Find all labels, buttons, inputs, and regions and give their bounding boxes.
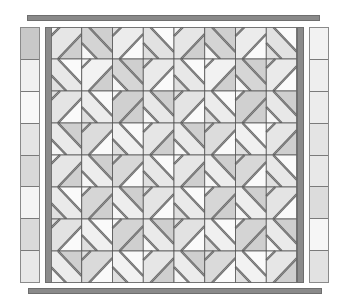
quilt-block	[236, 91, 267, 123]
quilt-block	[205, 155, 236, 187]
quilt-block	[205, 27, 236, 59]
quilt-block	[266, 187, 297, 219]
quilt-block	[82, 27, 113, 59]
quilt-block	[236, 59, 267, 91]
quilt-block	[205, 59, 236, 91]
quilt-block	[143, 251, 174, 283]
border-square	[310, 187, 328, 219]
quilt-block	[82, 251, 113, 283]
quilt-block	[236, 155, 267, 187]
quilt-block	[51, 219, 82, 251]
quilt-block	[51, 187, 82, 219]
quilt-block	[174, 251, 205, 283]
border-square	[21, 28, 39, 60]
quilt-block	[143, 91, 174, 123]
quilt-block	[236, 27, 267, 59]
quilt-block	[236, 123, 267, 155]
quilt-block	[82, 219, 113, 251]
border-square	[310, 60, 328, 92]
quilt-block	[174, 155, 205, 187]
border-square	[310, 28, 328, 60]
bottom-border-strip	[28, 288, 322, 294]
quilt-block	[174, 187, 205, 219]
quilt-block	[205, 251, 236, 283]
quilt-block	[51, 251, 82, 283]
quilt-block	[266, 219, 297, 251]
quilt-block	[82, 91, 113, 123]
quilt-block	[113, 251, 144, 283]
border-square	[310, 251, 328, 282]
quilt-block	[143, 59, 174, 91]
quilt-block	[174, 123, 205, 155]
quilt-block	[236, 187, 267, 219]
quilt-block	[113, 91, 144, 123]
quilt-block	[113, 155, 144, 187]
quilt-block	[143, 219, 174, 251]
border-square	[21, 124, 39, 156]
left-border-column	[20, 27, 40, 283]
quilt-block	[82, 59, 113, 91]
right-border-column	[309, 27, 329, 283]
quilt-block	[266, 27, 297, 59]
quilt-block	[205, 187, 236, 219]
quilt-block	[51, 59, 82, 91]
quilt-block	[174, 91, 205, 123]
quilt-block	[113, 123, 144, 155]
quilt-block	[51, 91, 82, 123]
top-border-strip	[27, 15, 320, 21]
border-square	[21, 251, 39, 282]
border-square	[310, 92, 328, 124]
border-square	[21, 187, 39, 219]
quilt-block	[82, 187, 113, 219]
quilt-block	[236, 219, 267, 251]
border-square	[310, 124, 328, 156]
border-square	[21, 156, 39, 188]
quilt-block	[51, 155, 82, 187]
quilt-center-grid	[51, 27, 297, 283]
quilt-block	[143, 123, 174, 155]
border-square	[310, 219, 328, 251]
quilt-block	[205, 123, 236, 155]
quilt-block	[174, 59, 205, 91]
quilt-block	[174, 219, 205, 251]
quilt-block	[266, 91, 297, 123]
quilt-block	[266, 155, 297, 187]
quilt-block	[143, 187, 174, 219]
border-square	[21, 219, 39, 251]
right-sashing-stripe	[297, 27, 304, 283]
quilt-block	[205, 91, 236, 123]
border-square	[21, 92, 39, 124]
quilt-block	[51, 123, 82, 155]
quilt-block	[266, 59, 297, 91]
quilt-block	[266, 123, 297, 155]
quilt-block	[113, 27, 144, 59]
quilt-block	[82, 123, 113, 155]
quilt-block	[113, 219, 144, 251]
quilt-block	[266, 251, 297, 283]
quilt-block	[113, 187, 144, 219]
quilt-block	[143, 155, 174, 187]
quilt-block	[143, 27, 174, 59]
border-square	[310, 156, 328, 188]
quilt-block	[205, 219, 236, 251]
quilt-block	[236, 251, 267, 283]
quilt-block	[82, 155, 113, 187]
quilt-block	[113, 59, 144, 91]
quilt-block	[51, 27, 82, 59]
border-square	[21, 60, 39, 92]
quilt-block	[174, 27, 205, 59]
